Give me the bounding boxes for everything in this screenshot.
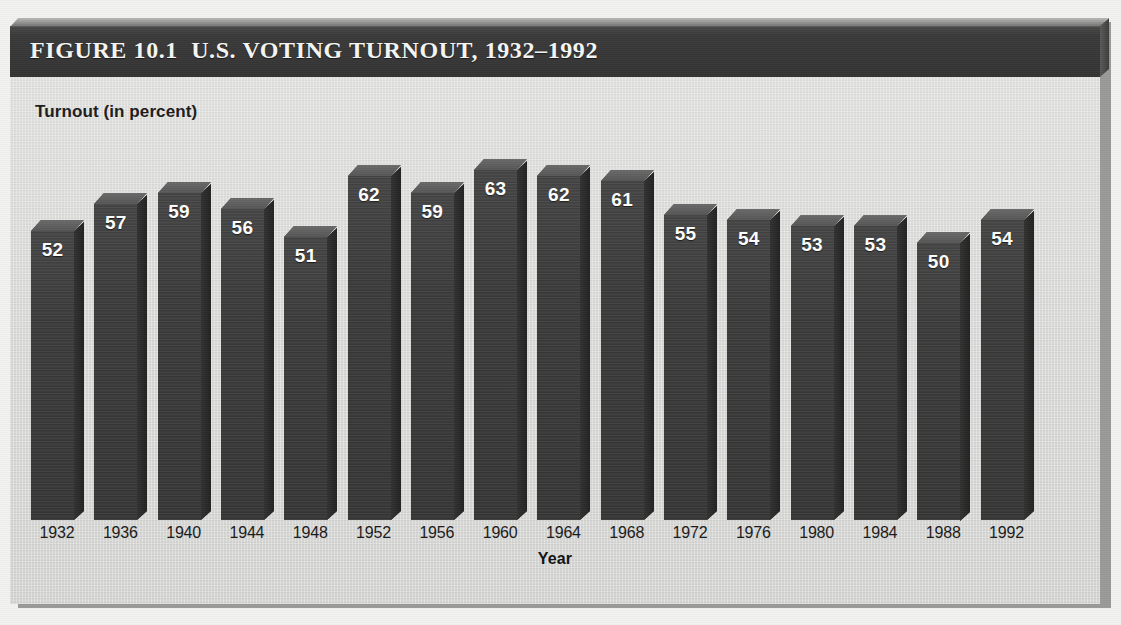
bar-column: 541992 bbox=[981, 220, 1024, 520]
x-axis-tick-label: 1940 bbox=[152, 524, 216, 542]
bar-value-label: 59 bbox=[411, 201, 454, 223]
bar-value-label: 61 bbox=[601, 189, 644, 211]
bar-column: 551972 bbox=[664, 215, 707, 520]
bar-top-face bbox=[348, 165, 401, 176]
bar-top-face bbox=[411, 182, 464, 193]
bar-column: 561944 bbox=[221, 209, 264, 520]
bar-value-label: 63 bbox=[474, 178, 517, 200]
bar-front-face bbox=[981, 220, 1024, 520]
bar-column: 611968 bbox=[601, 181, 644, 520]
bar-value-label: 54 bbox=[727, 228, 770, 250]
bar-front-face bbox=[411, 193, 454, 520]
x-axis-tick-label: 1944 bbox=[215, 524, 279, 542]
bar-side-face bbox=[770, 211, 780, 520]
x-axis-tick-label: 1984 bbox=[848, 524, 912, 542]
bar-side-face bbox=[707, 206, 717, 520]
bar-side-face bbox=[201, 184, 211, 520]
bar-top-face bbox=[791, 215, 844, 226]
x-axis-label: Year bbox=[10, 550, 1100, 568]
x-axis-tick-label: 1956 bbox=[405, 524, 469, 542]
bar-front-face bbox=[854, 226, 897, 520]
bar-front-face bbox=[917, 243, 960, 521]
bar-side-face bbox=[897, 217, 907, 520]
bar-value-label: 56 bbox=[221, 217, 264, 239]
bar-side-face bbox=[327, 228, 337, 520]
bar-side-face bbox=[74, 222, 84, 520]
bar-side-face bbox=[264, 200, 274, 520]
bar-value-label: 55 bbox=[664, 223, 707, 245]
bar-front-face bbox=[791, 226, 834, 520]
bar-front-face bbox=[221, 209, 264, 520]
bar-value-label: 59 bbox=[158, 201, 201, 223]
bar-front-face bbox=[348, 176, 391, 520]
bar-side-face bbox=[517, 161, 527, 520]
bar-series-layer: 5219325719365919405619445119486219525919… bbox=[10, 77, 1100, 604]
y-axis-label: Turnout (in percent) bbox=[35, 102, 197, 122]
bar-column: 591956 bbox=[411, 193, 454, 520]
bar-column: 531984 bbox=[854, 226, 897, 520]
bar-side-face bbox=[1024, 211, 1034, 520]
bar-value-label: 57 bbox=[94, 212, 137, 234]
bar-front-face bbox=[727, 220, 770, 520]
bar-column: 571936 bbox=[94, 204, 137, 520]
x-axis-tick-label: 1968 bbox=[595, 524, 659, 542]
bar-column: 531980 bbox=[791, 226, 834, 520]
x-axis-tick-label: 1932 bbox=[25, 524, 89, 542]
bar-column: 621952 bbox=[348, 176, 391, 520]
x-axis-tick-label: 1964 bbox=[531, 524, 595, 542]
header-bevel-right-edge bbox=[1100, 18, 1109, 77]
figure-title: FIGURE 10.1 U.S. VOTING TURNOUT, 1932–19… bbox=[30, 37, 598, 64]
bar-value-label: 53 bbox=[791, 234, 834, 256]
chart-plot-area: Turnout (in percent) 5219325719365919405… bbox=[10, 77, 1100, 604]
bar-side-face bbox=[391, 167, 401, 520]
bar-front-face bbox=[537, 176, 580, 520]
bar-front-face bbox=[31, 231, 74, 520]
bar-side-face bbox=[834, 217, 844, 520]
bar-value-label: 50 bbox=[917, 251, 960, 273]
bar-value-label: 53 bbox=[854, 234, 897, 256]
bar-value-label: 51 bbox=[284, 245, 327, 267]
x-axis-tick-label: 1976 bbox=[721, 524, 785, 542]
bar-value-label: 62 bbox=[348, 184, 391, 206]
x-axis-tick-label: 1992 bbox=[975, 524, 1039, 542]
bar-side-face bbox=[137, 195, 147, 520]
bar-front-face bbox=[94, 204, 137, 520]
bar-front-face bbox=[664, 215, 707, 520]
bar-front-face bbox=[474, 170, 517, 520]
x-axis-tick-label: 1988 bbox=[911, 524, 975, 542]
bar-column: 501988 bbox=[917, 243, 960, 521]
x-axis-tick-label: 1952 bbox=[342, 524, 406, 542]
bar-column: 521932 bbox=[31, 231, 74, 520]
bar-top-face bbox=[158, 182, 211, 193]
bar-side-face bbox=[580, 167, 590, 520]
x-axis-tick-label: 1936 bbox=[88, 524, 152, 542]
x-axis-tick-label: 1972 bbox=[658, 524, 722, 542]
bar-value-label: 52 bbox=[31, 239, 74, 261]
bar-column: 541976 bbox=[727, 220, 770, 520]
bar-column: 591940 bbox=[158, 193, 201, 520]
bar-column: 631960 bbox=[474, 170, 517, 520]
bar-front-face bbox=[284, 237, 327, 520]
bar-side-face bbox=[454, 184, 464, 520]
bar-side-face bbox=[644, 172, 654, 520]
x-axis-tick-label: 1980 bbox=[785, 524, 849, 542]
figure-container: FIGURE 10.1 U.S. VOTING TURNOUT, 1932–19… bbox=[0, 0, 1121, 625]
bar-column: 621964 bbox=[537, 176, 580, 520]
bar-value-label: 54 bbox=[981, 228, 1024, 250]
bar-column: 511948 bbox=[284, 237, 327, 520]
x-axis-tick-label: 1948 bbox=[278, 524, 342, 542]
bar-value-label: 62 bbox=[537, 184, 580, 206]
x-axis-tick-label: 1960 bbox=[468, 524, 532, 542]
bar-front-face bbox=[158, 193, 201, 520]
bar-front-face bbox=[601, 181, 644, 520]
bar-side-face bbox=[960, 233, 970, 520]
